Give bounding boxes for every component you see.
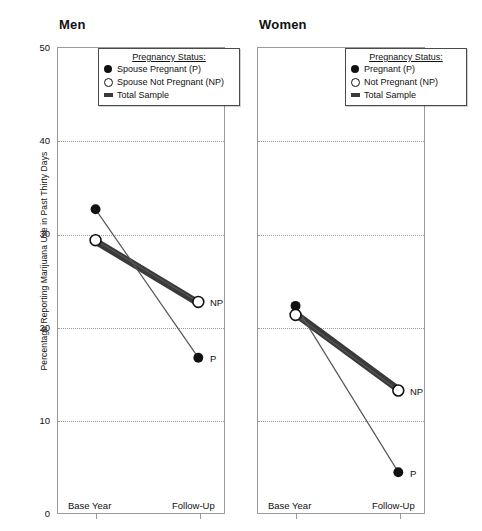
line-not-pregnant-men xyxy=(96,240,199,302)
plot-area-women: NP P xyxy=(257,47,425,514)
x-label-base-year-women: Base Year xyxy=(268,500,311,511)
thick-bar-icon xyxy=(104,93,117,97)
line-pregnant-men xyxy=(96,209,199,357)
open-circle-icon xyxy=(104,78,117,87)
line-not-pregnant-women xyxy=(296,315,399,391)
x-tick-base-year xyxy=(296,513,297,519)
legend-item-total-sample-men: Total Sample xyxy=(104,89,234,101)
point-not-pregnant-follow-up-women xyxy=(393,385,404,396)
filled-circle-icon xyxy=(104,65,117,73)
thick-bar-icon xyxy=(351,93,364,97)
y-tick-0: 0 xyxy=(28,508,50,519)
legend-item-spouse-not-pregnant: Spouse Not Pregnant (NP) xyxy=(104,76,234,88)
panel-title-men: Men xyxy=(59,17,86,32)
filled-circle-icon xyxy=(351,65,364,73)
y-axis-label: Percentage Reporting Marijuana Use in Pa… xyxy=(39,131,49,391)
x-tick-follow-up xyxy=(400,513,401,519)
y-tick-30: 30 xyxy=(28,228,50,239)
legend-label-total-sample-women: Total Sample xyxy=(364,89,416,101)
legend-title-women: Pregnancy Status: xyxy=(351,52,461,62)
legend-label-pregnant: Pregnant (P) xyxy=(364,63,415,75)
point-pregnant-follow-up-men xyxy=(193,353,203,363)
legend-title-men: Pregnancy Status: xyxy=(104,52,234,62)
point-not-pregnant-follow-up-men xyxy=(193,296,204,307)
y-tick-10: 10 xyxy=(28,415,50,426)
x-label-follow-up-women: Follow-Up xyxy=(372,500,415,511)
legend-women: Pregnancy Status: Pregnant (P) Not Pregn… xyxy=(345,48,467,106)
legend-label-total-sample-men: Total Sample xyxy=(117,89,169,101)
legend-item-total-sample-women: Total Sample xyxy=(351,89,461,101)
x-tick-base-year xyxy=(96,513,97,519)
y-tick-20: 20 xyxy=(28,322,50,333)
series-lines-men xyxy=(58,48,224,513)
panel-title-women: Women xyxy=(259,17,307,32)
legend-label-spouse-not-pregnant: Spouse Not Pregnant (NP) xyxy=(117,76,224,88)
line-total-sample-women xyxy=(296,314,399,390)
legend-label-spouse-pregnant: Spouse Pregnant (P) xyxy=(117,63,201,75)
line-pregnant-women xyxy=(296,306,399,472)
point-not-pregnant-base-year-men xyxy=(90,235,101,246)
point-label-np-women: NP xyxy=(410,386,423,397)
point-label-p-men: P xyxy=(210,353,216,364)
point-label-np-men: NP xyxy=(210,297,223,308)
point-not-pregnant-base-year-women xyxy=(290,309,301,320)
point-pregnant-follow-up-women xyxy=(393,467,403,477)
legend-item-pregnant: Pregnant (P) xyxy=(351,63,461,75)
line-total-sample-men xyxy=(96,241,199,303)
point-label-p-women: P xyxy=(410,468,416,479)
open-circle-icon xyxy=(351,78,364,87)
legend-men: Pregnancy Status: Spouse Pregnant (P) Sp… xyxy=(98,48,240,106)
y-tick-50: 50 xyxy=(28,42,50,53)
x-label-follow-up-men: Follow-Up xyxy=(172,500,215,511)
x-label-base-year-men: Base Year xyxy=(68,500,111,511)
y-tick-40: 40 xyxy=(28,135,50,146)
legend-item-spouse-pregnant: Spouse Pregnant (P) xyxy=(104,63,234,75)
x-tick-follow-up xyxy=(200,513,201,519)
point-pregnant-base-year-men xyxy=(91,204,101,214)
figure-root: Men Women Percentage Reporting Marijuana… xyxy=(0,0,482,531)
legend-label-not-pregnant: Not Pregnant (NP) xyxy=(364,76,438,88)
plot-area-men: NP P xyxy=(57,47,225,514)
series-lines-women xyxy=(258,48,424,513)
legend-item-not-pregnant: Not Pregnant (NP) xyxy=(351,76,461,88)
